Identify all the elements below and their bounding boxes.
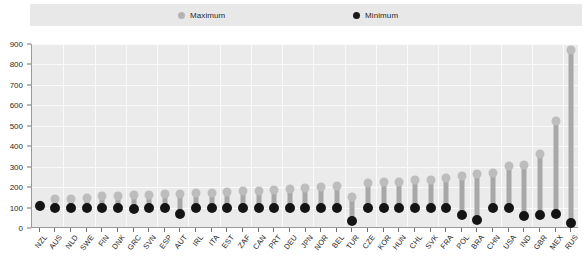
minimum-marker[interactable]: [363, 203, 373, 213]
maximum-marker[interactable]: [567, 46, 576, 55]
legend-item-minimum[interactable]: Minimum: [353, 11, 398, 20]
maximum-marker[interactable]: [551, 116, 560, 125]
maximum-marker[interactable]: [410, 176, 419, 185]
minimum-marker[interactable]: [332, 203, 342, 213]
x-tick-mark: [523, 228, 524, 232]
minimum-marker[interactable]: [300, 203, 310, 213]
x-tick-mark: [336, 228, 337, 232]
maximum-marker[interactable]: [332, 182, 341, 191]
minimum-marker[interactable]: [175, 209, 185, 219]
maximum-marker[interactable]: [379, 178, 388, 187]
minimum-marker[interactable]: [191, 203, 201, 213]
minimum-marker[interactable]: [457, 210, 467, 220]
maximum-marker[interactable]: [223, 187, 232, 196]
maximum-marker[interactable]: [520, 160, 529, 169]
maximum-marker[interactable]: [113, 191, 122, 200]
minimum-marker[interactable]: [472, 215, 482, 225]
maximum-marker[interactable]: [82, 194, 91, 203]
x-tick-mark: [289, 228, 290, 232]
maximum-marker[interactable]: [176, 189, 185, 198]
minimum-marker[interactable]: [504, 203, 514, 213]
x-tick-label: IND: [518, 233, 533, 249]
y-tick-label: 0: [19, 224, 23, 233]
x-tick-mark: [367, 228, 368, 232]
maximum-marker[interactable]: [67, 194, 76, 203]
maximum-marker[interactable]: [301, 184, 310, 193]
x-tick-mark: [430, 228, 431, 232]
x-tick-mark: [492, 228, 493, 232]
minimum-marker[interactable]: [566, 218, 576, 228]
minimum-marker[interactable]: [222, 203, 232, 213]
x-tick-label: JPN: [299, 233, 315, 250]
legend-item-maximum[interactable]: Maximum: [178, 11, 225, 20]
maximum-marker[interactable]: [395, 177, 404, 186]
minimum-marker[interactable]: [488, 203, 498, 213]
minimum-marker[interactable]: [347, 216, 357, 226]
maximum-marker[interactable]: [426, 175, 435, 184]
maximum-marker[interactable]: [192, 189, 201, 198]
maximum-marker[interactable]: [270, 185, 279, 194]
maximum-marker[interactable]: [254, 186, 263, 195]
maximum-marker[interactable]: [489, 168, 498, 177]
x-tick-label: SVK: [423, 233, 440, 251]
x-tick-mark: [133, 228, 134, 232]
x-tick-label: IRL: [191, 233, 205, 248]
minimum-marker[interactable]: [35, 201, 45, 211]
x-tick-mark: [461, 228, 462, 232]
x-tick-label: CHN: [485, 233, 502, 252]
minimum-marker[interactable]: [66, 203, 76, 213]
minimum-marker[interactable]: [82, 203, 92, 213]
maximum-marker[interactable]: [160, 190, 169, 199]
minimum-marker[interactable]: [551, 209, 561, 219]
x-tick-label: NOR: [313, 233, 331, 252]
x-tick-label: BRA: [470, 233, 487, 251]
x-tick-mark: [383, 228, 384, 232]
maximum-marker[interactable]: [145, 190, 154, 199]
maximum-marker[interactable]: [442, 174, 451, 183]
plot-area: [31, 44, 578, 228]
minimum-marker[interactable]: [144, 203, 154, 213]
minimum-marker[interactable]: [441, 203, 451, 213]
maximum-marker[interactable]: [207, 188, 216, 197]
minimum-marker[interactable]: [50, 203, 60, 213]
minimum-marker[interactable]: [129, 204, 139, 214]
x-tick-label: AUS: [48, 233, 65, 251]
minimum-marker[interactable]: [379, 203, 389, 213]
minimum-marker[interactable]: [254, 203, 264, 213]
maximum-marker[interactable]: [129, 191, 138, 200]
maximum-marker[interactable]: [317, 183, 326, 192]
minimum-marker[interactable]: [113, 203, 123, 213]
x-tick-mark: [570, 228, 571, 232]
maximum-marker[interactable]: [285, 185, 294, 194]
maximum-marker[interactable]: [348, 193, 357, 202]
minimum-marker[interactable]: [535, 210, 545, 220]
minimum-marker[interactable]: [410, 203, 420, 213]
minimum-marker[interactable]: [519, 211, 529, 221]
maximum-marker[interactable]: [473, 169, 482, 178]
maximum-marker[interactable]: [504, 161, 513, 170]
x-tick-mark: [258, 228, 259, 232]
maximum-marker[interactable]: [535, 150, 544, 159]
maximum-marker[interactable]: [364, 179, 373, 188]
minimum-marker[interactable]: [238, 203, 248, 213]
minimum-marker[interactable]: [160, 203, 170, 213]
minimum-marker[interactable]: [394, 203, 404, 213]
maximum-marker[interactable]: [238, 187, 247, 196]
x-tick-label: CHL: [407, 233, 424, 251]
x-tick-label: DEU: [282, 233, 299, 251]
x-tick-label: HUN: [391, 233, 408, 252]
minimum-marker[interactable]: [285, 203, 295, 213]
minimum-marker[interactable]: [97, 203, 107, 213]
y-tick-label: 200: [10, 183, 23, 192]
maximum-marker[interactable]: [457, 171, 466, 180]
range-stem: [553, 121, 558, 215]
minimum-marker[interactable]: [269, 203, 279, 213]
x-tick-mark: [351, 228, 352, 232]
x-tick-mark: [148, 228, 149, 232]
minimum-marker[interactable]: [207, 203, 217, 213]
y-tick-label: 900: [10, 40, 23, 49]
minimum-marker[interactable]: [426, 203, 436, 213]
chart-container: Maximum Minimum 010020030040050060070080…: [0, 0, 586, 259]
maximum-marker[interactable]: [98, 192, 107, 201]
minimum-marker[interactable]: [316, 203, 326, 213]
